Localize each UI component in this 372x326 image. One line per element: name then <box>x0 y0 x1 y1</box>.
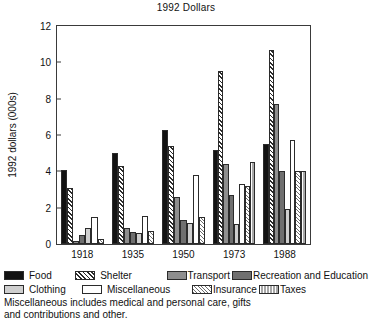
y-tick-label-2: 2 <box>11 202 57 213</box>
legend-row-1: FoodShelterTransportRecreation and Educa… <box>4 268 370 282</box>
bar-1918-insurance <box>98 239 104 244</box>
legend-label: Taxes <box>280 284 306 295</box>
legend-item-shelter[interactable]: Shelter <box>75 270 166 281</box>
legend-label: Food <box>29 270 52 281</box>
legend-row-2: ClothingMiscellaneousInsuranceTaxes <box>4 282 370 296</box>
plot-area: 02468101219181935195019731988 <box>56 25 311 245</box>
solid-black-swatch-icon <box>4 271 24 280</box>
legend-label: Shelter <box>100 270 132 281</box>
legend-item-insurance[interactable]: Insurance <box>192 284 259 295</box>
y-tick-label-6: 6 <box>11 130 57 141</box>
bar-1950-insurance <box>199 217 205 244</box>
bar-1918-shelter <box>67 188 73 244</box>
chart-footnote: Miscellaneous includes medical and perso… <box>4 297 370 321</box>
y-tick-label-0: 0 <box>11 239 57 250</box>
footnote-line-1: Miscellaneous includes medical and perso… <box>4 297 370 309</box>
y-tick-label-4: 4 <box>11 166 57 177</box>
x-tick-label-1988: 1988 <box>274 249 296 260</box>
legend-label: Insurance <box>213 284 257 295</box>
chart-title: 1992 Dollars <box>0 2 372 13</box>
legend-item-recreation-and-education[interactable]: Recreation and Education <box>232 270 370 281</box>
legend-item-taxes[interactable]: Taxes <box>259 284 308 295</box>
bar-group-1973: 1973 <box>209 26 260 244</box>
legend-label: Miscellaneous <box>107 284 170 295</box>
legend-item-miscellaneous[interactable]: Miscellaneous <box>82 284 192 295</box>
plot-inner: 02468101219181935195019731988 <box>57 26 310 244</box>
vertical-lines-swatch-icon <box>259 285 279 294</box>
legend-item-clothing[interactable]: Clothing <box>4 284 82 295</box>
footnote-line-2: and contributions and other. <box>4 309 370 321</box>
medium-grey-swatch-icon <box>167 271 187 280</box>
x-tick-label-1935: 1935 <box>122 249 144 260</box>
x-tick-label-1973: 1973 <box>223 249 245 260</box>
x-tick-label-1950: 1950 <box>172 249 194 260</box>
light-grey-swatch-icon <box>4 285 24 294</box>
bar-group-1918: 1918 <box>57 26 108 244</box>
chart-legend: FoodShelterTransportRecreation and Educa… <box>4 268 370 296</box>
x-tick-label-1918: 1918 <box>71 249 93 260</box>
legend-label: Transport <box>188 270 230 281</box>
bar-1988-taxes <box>301 171 306 244</box>
bar-group-1935: 1935 <box>108 26 159 244</box>
bar-1973-taxes <box>250 162 255 244</box>
bar-group-1988: 1988 <box>259 26 310 244</box>
chart-page: 1992 Dollars 1992 dollars (000s) 0246810… <box>0 0 372 326</box>
y-tick-label-12: 12 <box>11 21 57 32</box>
bar-group-1950: 1950 <box>158 26 209 244</box>
legend-item-transport[interactable]: Transport <box>167 270 232 281</box>
dark-grey-swatch-icon <box>232 271 252 280</box>
legend-label: Recreation and Education <box>253 270 368 281</box>
y-tick-label-10: 10 <box>11 57 57 68</box>
stipple-hatch-swatch-icon <box>192 285 212 294</box>
white-swatch-icon <box>82 285 102 294</box>
legend-label: Clothing <box>29 284 66 295</box>
legend-item-food[interactable]: Food <box>4 270 75 281</box>
y-tick-label-8: 8 <box>11 93 57 104</box>
bar-1935-insurance <box>148 231 154 244</box>
diagonal-hatch-swatch-icon <box>75 271 95 280</box>
